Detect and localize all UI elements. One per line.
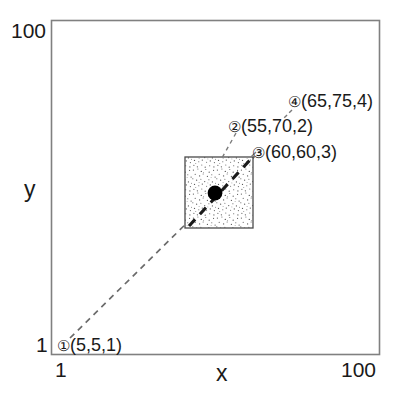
- point-label-4: (65,75,4): [301, 91, 373, 111]
- y-axis-title: y: [24, 178, 36, 201]
- y-axis-max-label: 100: [11, 20, 46, 41]
- point-marker-2: ②: [228, 119, 241, 134]
- center-point-marker: [208, 186, 223, 201]
- point-label-1: (5,5,1): [70, 335, 122, 355]
- point-label-2: (55,70,2): [241, 116, 313, 136]
- point-annotation-2: ②(55,70,2): [228, 117, 313, 135]
- plot-figure: 100 1 1 100 y x ①(5,5,1) ②(55,70,2) ③(60…: [0, 0, 399, 415]
- point-label-3: (60,60,3): [265, 142, 337, 162]
- point-annotation-3: ③(60,60,3): [252, 143, 337, 161]
- point-marker-1: ①: [57, 338, 70, 353]
- leader-line-2: [222, 133, 236, 158]
- point-annotation-1: ①(5,5,1): [57, 336, 122, 354]
- x-axis-max-label: 100: [341, 359, 376, 380]
- point-annotation-4: ④(65,75,4): [288, 92, 373, 110]
- point-marker-4: ④: [288, 94, 301, 109]
- y-axis-min-label: 1: [36, 334, 48, 355]
- x-axis-min-label: 1: [55, 359, 67, 380]
- x-axis-title: x: [216, 362, 228, 385]
- point-marker-3: ③: [252, 145, 265, 160]
